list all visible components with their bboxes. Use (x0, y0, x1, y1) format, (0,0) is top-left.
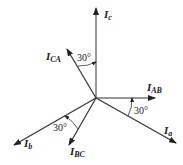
label-Ic: Ic (103, 8, 112, 22)
angle-label-right: 30° (134, 105, 148, 116)
angle-arc-right (128, 98, 132, 116)
label-ICA: ICA (45, 50, 62, 64)
label-Ib: Ib (23, 137, 32, 151)
label-IAB: IAB (146, 81, 163, 95)
angle-label-bottom-left: 30° (53, 122, 67, 133)
angle-label-top: 30° (77, 52, 91, 63)
label-Ia: Ia (163, 124, 172, 138)
phasor-diagram: Ic ICA IAB Ia Ib IBC 30° 30° 30° (0, 0, 183, 165)
label-IBC: IBC (69, 145, 86, 159)
